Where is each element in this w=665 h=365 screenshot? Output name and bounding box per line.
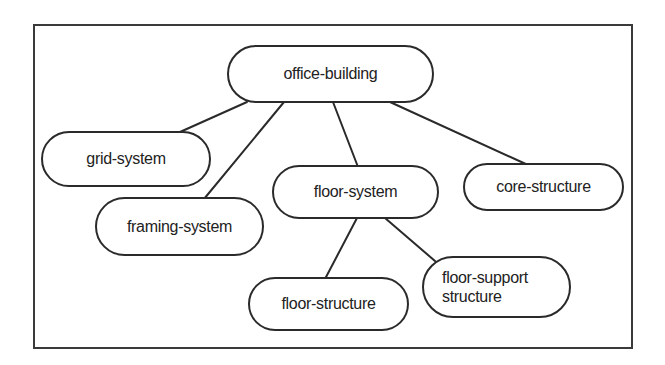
node-label: grid-system [86,150,165,168]
node-label: office-building [284,65,378,83]
edge-office-building-floor-system [333,102,358,167]
node-label: floor-system [314,183,398,201]
node-framing-system: framing-system [95,197,264,256]
node-floor-system: floor-system [272,165,439,219]
node-label: core-structure [496,178,591,196]
edge-office-building-core-structure [390,102,528,165]
node-floor-support-structure: floor-support structure [422,256,571,318]
node-office-building: office-building [227,45,434,103]
node-label: framing-system [127,218,232,236]
node-grid-system: grid-system [41,131,211,187]
edge-office-building-grid-system [180,102,247,132]
node-core-structure: core-structure [463,163,624,211]
diagram-canvas: office-building grid-system framing-syst… [0,0,665,365]
node-floor-structure: floor-structure [248,277,409,331]
node-label: floor-structure [281,295,375,313]
node-label: floor-support structure [442,268,528,306]
edge-floor-system-floor-support-structure [385,218,435,261]
edge-floor-system-floor-structure [325,218,357,279]
